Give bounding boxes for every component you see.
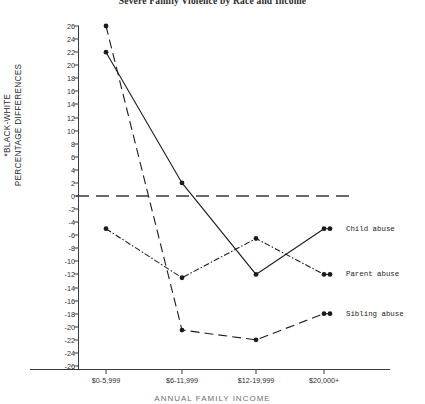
y-axis-tick-mark <box>74 248 79 249</box>
data-point-marker <box>180 181 185 186</box>
x-axis-tick-mark <box>106 369 107 374</box>
y-axis-tick-mark <box>74 313 79 314</box>
y-axis-tick-mark <box>74 261 79 262</box>
y-axis-tick-mark <box>74 78 79 79</box>
legend-marker <box>328 311 333 316</box>
x-axis-tick-mark <box>182 369 183 374</box>
y-axis-tick-mark <box>74 274 79 275</box>
y-axis-tick-mark <box>74 65 79 66</box>
y-axis-tick-mark <box>74 196 79 197</box>
data-point-marker <box>180 275 185 280</box>
legend-marker <box>328 272 333 277</box>
series-parent-abuse <box>104 226 333 280</box>
x-axis-tick-label: $20,000+ <box>309 376 339 385</box>
y-axis-tick-mark <box>74 39 79 40</box>
y-axis-tick-mark <box>74 287 79 288</box>
data-point-marker <box>104 24 109 29</box>
y-axis-tick-mark <box>74 52 79 53</box>
series-sibling-abuse <box>104 24 333 343</box>
chart-title: Severe Family Violence by Race and Incom… <box>0 0 425 6</box>
y-axis-tick-mark <box>74 26 79 27</box>
legend-label-child[interactable]: Child abuse <box>346 225 395 233</box>
legend-label-sibling[interactable]: Sibling abuse <box>346 310 404 318</box>
y-axis-tick-mark <box>74 104 79 105</box>
y-axis-tick-mark <box>74 143 79 144</box>
y-axis-tick-mark <box>74 182 79 183</box>
x-axis-tick-mark <box>324 369 325 374</box>
x-axis-title: ANNUAL FAMILY INCOME <box>0 394 425 404</box>
chart-container: Severe Family Violence by Race and Incom… <box>0 0 425 404</box>
series-line <box>106 229 324 278</box>
data-point-marker <box>254 337 259 342</box>
y-axis-tick-mark <box>74 117 79 118</box>
data-point-marker <box>254 236 259 241</box>
y-axis-tick-mark <box>74 352 79 353</box>
y-axis-title: *BLACK-WHITE PERCENTAGE DIFFERENCES <box>2 50 30 200</box>
x-axis-line <box>30 369 390 370</box>
plot-area: 26242220181614121086420-2-4-6-8-10-12-14… <box>78 26 340 366</box>
data-point-marker <box>254 272 259 277</box>
y-axis-title-line1: *BLACK-WHITE <box>2 50 13 200</box>
x-axis-tick-mark <box>256 369 257 374</box>
x-axis-tick-label: $6-11,999 <box>166 376 198 385</box>
y-axis-tick-mark <box>74 366 79 367</box>
x-axis-tick-label: $0-5,999 <box>92 376 120 385</box>
y-axis-title-line2: PERCENTAGE DIFFERENCES <box>13 50 24 200</box>
data-point-marker <box>104 226 109 231</box>
y-axis-tick-mark <box>74 326 79 327</box>
series-child-abuse <box>104 50 333 277</box>
y-axis-tick-mark <box>74 300 79 301</box>
series-line <box>106 26 324 340</box>
y-axis-tick-mark <box>74 156 79 157</box>
data-point-marker <box>180 328 185 333</box>
y-axis-tick-mark <box>74 222 79 223</box>
data-point-marker <box>104 50 109 55</box>
y-axis-tick-mark <box>74 339 79 340</box>
legend-marker <box>328 226 333 231</box>
y-axis-tick-mark <box>74 209 79 210</box>
series-canvas <box>78 26 340 366</box>
x-axis-tick-label: $12-19,999 <box>238 376 274 385</box>
legend-label-parent[interactable]: Parent abuse <box>346 270 399 278</box>
y-axis-tick-mark <box>74 91 79 92</box>
series-line <box>106 52 324 274</box>
y-axis-tick-mark <box>74 169 79 170</box>
y-axis-tick-mark <box>74 130 79 131</box>
y-axis-tick-mark <box>74 235 79 236</box>
